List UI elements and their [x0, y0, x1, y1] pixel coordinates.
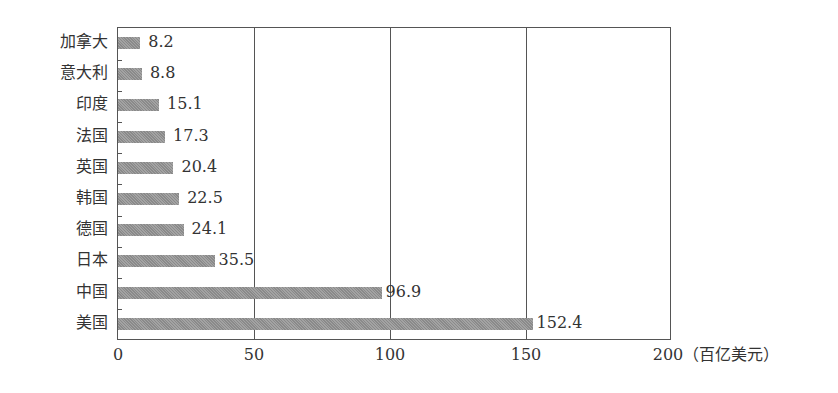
- value-label: 8.2: [148, 34, 173, 50]
- value-label: 152.4: [537, 315, 583, 331]
- bar: [118, 99, 159, 111]
- bar: [118, 318, 533, 330]
- y-tick: [118, 278, 122, 279]
- bar: [118, 37, 140, 49]
- x-tick-100: 100: [375, 347, 406, 363]
- value-label: 96.9: [386, 284, 422, 300]
- bar: [118, 68, 142, 80]
- y-tick: [118, 122, 122, 123]
- category-label: 加拿大: [60, 34, 108, 50]
- y-tick: [118, 184, 122, 185]
- y-tick: [118, 91, 122, 92]
- x-axis-unit: （百亿美元）: [683, 347, 779, 363]
- bar: [118, 224, 184, 236]
- y-tick: [118, 216, 122, 217]
- category-label: 日本: [76, 252, 108, 268]
- gridline-150: [526, 28, 527, 339]
- bar: [118, 193, 179, 205]
- y-tick: [118, 309, 122, 310]
- category-label: 英国: [76, 159, 108, 175]
- value-label: 15.1: [167, 96, 203, 112]
- category-label: 韩国: [76, 190, 108, 206]
- x-tick-150: 150: [511, 347, 542, 363]
- value-label: 20.4: [181, 159, 217, 175]
- value-label: 17.3: [173, 128, 209, 144]
- category-label: 法国: [76, 128, 108, 144]
- bar: [118, 287, 382, 299]
- y-tick: [118, 247, 122, 248]
- category-label: 美国: [76, 315, 108, 331]
- bar: [118, 131, 165, 143]
- category-label: 中国: [76, 284, 108, 300]
- x-tick-200: 200: [653, 347, 684, 363]
- value-label: 24.1: [192, 221, 228, 237]
- x-tick-0: 0: [113, 347, 123, 363]
- bar: [118, 162, 173, 174]
- category-label: 德国: [76, 221, 108, 237]
- bar: [118, 255, 215, 267]
- category-label: 印度: [76, 96, 108, 112]
- category-label: 意大利: [60, 65, 108, 81]
- x-tick-50: 50: [244, 347, 264, 363]
- value-label: 35.5: [219, 252, 255, 268]
- y-tick: [118, 153, 122, 154]
- y-tick: [118, 60, 122, 61]
- value-label: 22.5: [187, 190, 223, 206]
- value-label: 8.8: [150, 65, 175, 81]
